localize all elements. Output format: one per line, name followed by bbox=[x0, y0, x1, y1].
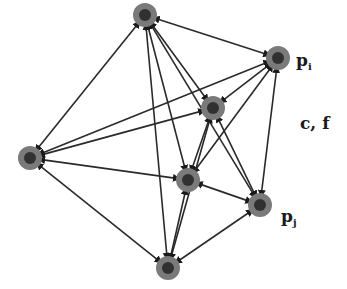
node-pj bbox=[248, 193, 272, 217]
edge-left-bottom bbox=[36, 163, 161, 263]
node-inner_upper bbox=[201, 96, 225, 120]
label-pj-sub: j bbox=[293, 217, 297, 228]
label-cf: c, f bbox=[300, 115, 330, 132]
edge-inner_lower-bottom bbox=[170, 188, 186, 260]
label-pi: pi bbox=[296, 52, 312, 72]
graph-canvas bbox=[0, 0, 347, 289]
edges-group bbox=[35, 17, 277, 263]
edge-pi-left bbox=[37, 61, 270, 155]
nodes-group bbox=[18, 3, 290, 280]
edge-inner_upper-pj bbox=[216, 115, 256, 198]
edge-pi-inner_upper bbox=[219, 63, 271, 103]
edge-inner_lower-pj bbox=[196, 183, 253, 203]
edge-pj-bottom bbox=[175, 210, 254, 264]
label-pj: pj bbox=[281, 208, 297, 228]
node-bottom bbox=[156, 256, 180, 280]
node-pi bbox=[266, 46, 290, 70]
label-pi-sub: i bbox=[308, 61, 312, 72]
node-inner_lower bbox=[176, 168, 200, 192]
edge-pi-pj bbox=[261, 66, 277, 197]
label-pj-main: p bbox=[281, 206, 293, 226]
node-top bbox=[133, 3, 157, 27]
label-cf-text: c, f bbox=[300, 113, 330, 133]
node-left bbox=[18, 146, 42, 170]
edge-pi-inner_lower bbox=[193, 64, 274, 173]
label-pi-main: p bbox=[296, 50, 308, 70]
